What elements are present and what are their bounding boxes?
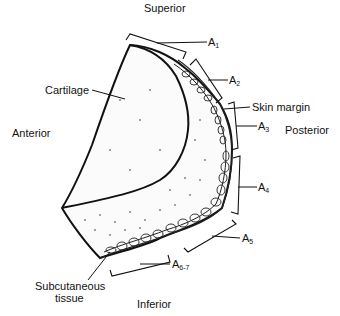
label-posterior: Posterior	[285, 124, 329, 136]
label-cartilage: Cartilage	[45, 84, 89, 96]
label-subcutaneous: Subcutaneous	[35, 280, 105, 292]
zone-a6-7-label: A6-7	[172, 258, 189, 274]
label-superior: Superior	[144, 2, 186, 14]
specimen-outline	[62, 45, 232, 258]
zone-a1-label: A1	[208, 36, 219, 52]
label-anterior: Anterior	[12, 127, 51, 139]
zone-a2-label: A2	[229, 74, 240, 90]
label-skin-margin: Skin margin	[252, 101, 310, 113]
label-inferior: Inferior	[137, 298, 171, 310]
zone-a4-label: A4	[258, 181, 269, 197]
zone-a3-label: A3	[258, 120, 269, 136]
label-tissue: tissue	[55, 292, 84, 304]
anatomy-diagram: Superior Inferior Anterior Posterior Car…	[0, 0, 340, 316]
specimen-drawing	[0, 0, 340, 316]
zone-a5-label: A5	[242, 232, 253, 248]
